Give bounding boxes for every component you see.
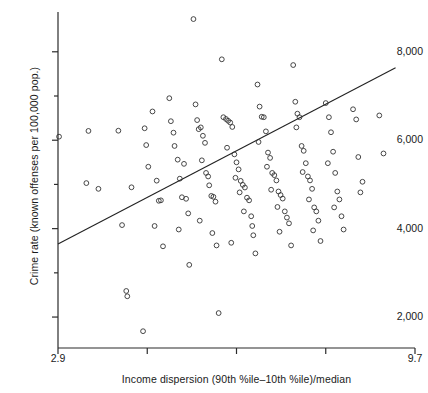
data-point xyxy=(308,178,313,183)
data-point xyxy=(187,262,192,267)
data-point xyxy=(265,164,270,169)
data-point xyxy=(289,243,294,248)
data-point xyxy=(333,171,338,176)
data-point xyxy=(251,233,256,238)
data-point xyxy=(337,197,342,202)
data-point xyxy=(176,227,181,232)
data-point xyxy=(167,96,172,101)
data-point xyxy=(216,311,221,316)
regression-line xyxy=(58,68,396,244)
y-tick-label: 6,000 xyxy=(375,133,423,145)
data-point xyxy=(237,190,242,195)
data-point xyxy=(125,294,130,299)
data-point xyxy=(311,228,316,233)
data-point xyxy=(332,205,337,210)
data-point xyxy=(213,199,218,204)
data-point xyxy=(285,215,290,220)
data-point xyxy=(120,223,125,228)
data-point xyxy=(171,130,176,135)
data-point xyxy=(291,63,296,68)
data-point xyxy=(327,115,332,120)
data-point xyxy=(57,134,62,139)
data-point xyxy=(150,109,155,114)
data-point xyxy=(318,239,323,244)
data-point xyxy=(269,187,274,192)
data-point xyxy=(331,149,336,154)
data-point xyxy=(256,140,261,145)
y-tick-label: 2,000 xyxy=(375,310,423,322)
data-point xyxy=(299,144,304,149)
data-point xyxy=(358,190,363,195)
data-point xyxy=(360,179,365,184)
data-point xyxy=(225,145,230,150)
data-point xyxy=(175,157,180,162)
data-points xyxy=(57,17,386,334)
x-axis-ticks xyxy=(58,348,415,354)
data-point xyxy=(236,167,241,172)
data-point xyxy=(129,185,134,190)
data-point xyxy=(182,161,187,166)
data-point xyxy=(255,82,260,87)
y-axis-ticks xyxy=(52,52,58,317)
data-point xyxy=(274,178,279,183)
data-point xyxy=(301,148,306,153)
data-point xyxy=(282,209,287,214)
data-point xyxy=(230,125,235,130)
data-point xyxy=(294,125,299,130)
data-point xyxy=(316,218,321,223)
data-point xyxy=(310,186,315,191)
data-point xyxy=(142,126,147,131)
data-point xyxy=(197,218,202,223)
x-axis-label: Income dispersion (90th %ile–10th %ile)/… xyxy=(58,373,415,385)
data-point xyxy=(377,113,382,118)
data-point xyxy=(229,240,234,245)
data-point xyxy=(141,329,146,334)
data-point xyxy=(351,107,356,112)
data-point xyxy=(234,160,239,165)
data-point xyxy=(257,104,262,109)
data-point xyxy=(116,128,121,133)
data-point xyxy=(207,183,212,188)
data-point xyxy=(307,197,312,202)
data-point xyxy=(144,143,149,148)
data-point xyxy=(201,133,206,138)
data-point xyxy=(191,17,196,22)
data-point xyxy=(341,227,346,232)
data-point xyxy=(84,181,89,186)
data-point xyxy=(325,161,330,166)
y-axis-label: Crime rate (known offenses per 100,000 p… xyxy=(28,46,40,306)
data-point xyxy=(249,214,254,219)
data-point xyxy=(339,214,344,219)
data-point xyxy=(210,231,215,236)
x-tick-label: 9.7 xyxy=(385,352,428,364)
data-point xyxy=(266,150,271,155)
data-point xyxy=(161,244,166,249)
data-point xyxy=(268,155,273,160)
data-point xyxy=(199,158,204,163)
data-point xyxy=(250,224,255,229)
y-tick-label: 4,000 xyxy=(375,222,423,234)
data-point xyxy=(264,129,269,134)
data-point xyxy=(241,209,246,214)
data-point xyxy=(277,229,282,234)
data-point xyxy=(300,170,305,175)
y-tick-label: 8,000 xyxy=(375,45,423,57)
data-point xyxy=(195,118,200,123)
data-point xyxy=(154,178,159,183)
data-point xyxy=(287,221,292,226)
data-point xyxy=(203,140,208,145)
data-point xyxy=(219,57,224,62)
data-point xyxy=(303,161,308,166)
data-point xyxy=(232,152,237,157)
data-point xyxy=(124,289,129,294)
data-point xyxy=(275,205,280,210)
data-point xyxy=(233,175,238,180)
data-point xyxy=(253,251,258,256)
data-point xyxy=(314,209,319,214)
data-point xyxy=(335,189,340,194)
data-point xyxy=(293,99,298,104)
data-point xyxy=(381,151,386,156)
data-point xyxy=(172,144,177,149)
